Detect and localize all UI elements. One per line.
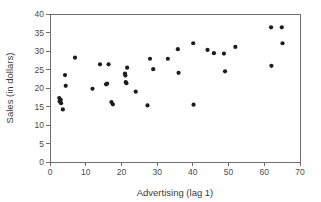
data-point <box>134 90 138 94</box>
data-point <box>233 45 237 49</box>
x-tick-label: 10 <box>81 167 91 177</box>
data-point <box>111 102 115 106</box>
x-tick-label: 0 <box>48 167 53 177</box>
x-tick-label: 40 <box>188 167 198 177</box>
data-point <box>151 67 155 71</box>
x-tick-label: 70 <box>295 167 305 177</box>
data-point <box>280 41 284 45</box>
x-tick-label: 30 <box>152 167 162 177</box>
data-point <box>59 101 63 105</box>
data-point <box>166 57 170 61</box>
data-point <box>176 71 180 75</box>
y-axis-title: Sales (in dollars) <box>4 53 15 124</box>
y-tick-label: 5 <box>39 139 44 149</box>
y-tick-label: 35 <box>35 28 45 38</box>
x-tick-label: 50 <box>224 167 234 177</box>
data-point <box>148 57 152 61</box>
x-tick-label: 20 <box>117 167 127 177</box>
data-point <box>106 62 110 66</box>
data-point <box>269 25 273 29</box>
data-point <box>98 62 102 66</box>
data-point <box>223 69 227 73</box>
data-point <box>212 51 216 55</box>
data-point <box>123 73 127 77</box>
data-point <box>105 81 109 85</box>
y-tick-label: 0 <box>39 157 44 167</box>
y-tick-label: 25 <box>35 65 45 75</box>
data-point <box>222 51 226 55</box>
scatter-plot-figure: 010203040506070 0510152025303540 Adverti… <box>0 0 321 202</box>
x-tick-label: 60 <box>260 167 270 177</box>
y-tick-label: 10 <box>35 120 45 130</box>
data-point <box>90 87 94 91</box>
data-point <box>124 81 128 85</box>
data-point <box>269 64 273 68</box>
data-point <box>63 73 67 77</box>
x-axis-title: Advertising (lag 1) <box>137 187 214 198</box>
data-point <box>64 84 68 88</box>
scatter-plot-svg: 010203040506070 0510152025303540 Adverti… <box>0 0 321 202</box>
data-point <box>125 66 129 70</box>
data-point <box>73 56 77 60</box>
data-point <box>280 25 284 29</box>
data-point <box>191 41 195 45</box>
y-tick-label: 40 <box>35 9 45 19</box>
y-tick-label: 30 <box>35 46 45 56</box>
y-tick-label: 15 <box>35 102 45 112</box>
data-point <box>205 48 209 52</box>
data-point <box>145 103 149 107</box>
data-point <box>61 107 65 111</box>
y-tick-label: 20 <box>35 83 45 93</box>
data-point <box>191 103 195 107</box>
data-point <box>176 47 180 51</box>
